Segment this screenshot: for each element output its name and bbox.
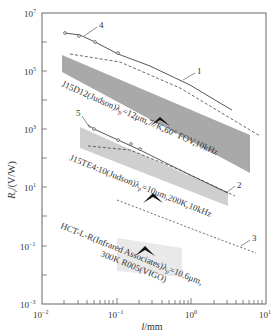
svg-text:10−1: 10−1 xyxy=(20,241,35,252)
callout-3-leader xyxy=(241,240,250,246)
svg-text:10−1: 10−1 xyxy=(108,309,123,320)
callout-4: 4 xyxy=(99,20,104,30)
series-4-markers xyxy=(64,32,120,55)
x-axis-ticks xyxy=(64,298,262,304)
svg-text:101: 101 xyxy=(24,182,36,193)
callout-2: 2 xyxy=(237,180,242,190)
y-tick-labels: 107 105 103 101 10−1 10−3 xyxy=(20,8,36,310)
callout-4-leader xyxy=(84,27,97,36)
svg-text:HCT-L-R(Infrared Associates)λp: HCT-L-R(Infrared Associates)λp=10.6μm, xyxy=(59,221,204,288)
svg-text:100: 100 xyxy=(185,309,197,320)
y-axis-ticks xyxy=(42,42,47,275)
svg-text:10−3: 10−3 xyxy=(20,299,35,310)
annotation-hct: HCT-L-R(Infrared Associates)λp=10.6μm, xyxy=(59,221,204,288)
svg-text:103: 103 xyxy=(24,124,36,135)
band-j15d12 xyxy=(62,55,250,173)
svg-text:107: 107 xyxy=(24,8,36,19)
svg-text:10−2: 10−2 xyxy=(33,309,48,320)
callout-1-leader xyxy=(183,73,195,80)
x-tick-labels: 10−2 10−1 100 101 xyxy=(33,309,271,320)
callout-1: 1 xyxy=(197,66,202,76)
y-axis-title: Rv/(V/W) xyxy=(6,161,18,200)
svg-text:101: 101 xyxy=(259,309,271,320)
callout-3: 3 xyxy=(252,233,257,243)
x-axis-title: l/mm xyxy=(141,321,162,332)
callout-5: 5 xyxy=(76,108,81,118)
responsivity-chart: 4 1 5 2 3 J15D12(Judson)λp=12μm,77K,60° … xyxy=(0,0,275,332)
callout-2-leader xyxy=(226,186,235,193)
svg-text:Rv/(V/W): Rv/(V/W) xyxy=(6,161,18,200)
callout-5-leader xyxy=(82,116,90,128)
svg-text:105: 105 xyxy=(24,66,36,77)
